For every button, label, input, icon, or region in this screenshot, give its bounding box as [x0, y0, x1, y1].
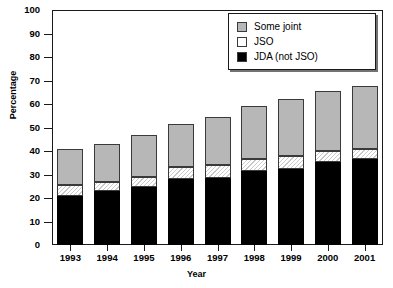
bar-segment-some-joint — [205, 117, 231, 165]
x-axis-tick — [365, 245, 366, 251]
y-axis-tick-label: 30 — [0, 170, 40, 180]
bar-segment-jda — [168, 179, 194, 245]
bar-segment-jda — [241, 171, 267, 245]
x-axis-tick — [328, 245, 329, 251]
bar-segment-some-joint — [57, 149, 83, 185]
y-axis-tick-label: 100 — [0, 5, 40, 15]
x-axis-tick — [218, 245, 219, 251]
bar-segment-jso — [168, 167, 194, 179]
y-axis-tick-label: 0 — [0, 240, 40, 250]
x-axis-tick — [181, 245, 182, 251]
bar-2000 — [315, 10, 341, 245]
x-axis-tick — [70, 245, 71, 251]
x-axis-tick — [107, 245, 108, 251]
y-axis-tick — [44, 81, 52, 82]
bar-segment-some-joint — [352, 86, 378, 148]
stacked-bar-chart: Percentage Year Some jointJSOJDA (not JS… — [0, 0, 393, 288]
bar-1994 — [94, 10, 120, 245]
y-axis-tick-label: 70 — [0, 76, 40, 86]
bar-segment-jso — [57, 185, 83, 196]
bar-segment-jda — [205, 178, 231, 245]
x-axis-title: Year — [0, 269, 393, 279]
bar-1995 — [131, 10, 157, 245]
bar-1993 — [57, 10, 83, 245]
x-axis-tick — [144, 245, 145, 251]
bar-segment-some-joint — [315, 91, 341, 151]
bar-1999 — [278, 10, 304, 245]
y-axis-tick-label: 20 — [0, 193, 40, 203]
bar-segment-jso — [352, 149, 378, 160]
bar-segment-some-joint — [131, 135, 157, 177]
y-axis-tick-label: 10 — [0, 217, 40, 227]
y-axis-tick — [44, 222, 52, 223]
y-axis-tick — [44, 151, 52, 152]
bar-segment-jda — [57, 196, 83, 245]
bar-segment-jda — [352, 159, 378, 245]
y-axis-tick-label: 60 — [0, 99, 40, 109]
bar-segment-jda — [131, 187, 157, 245]
x-axis-tick — [291, 245, 292, 251]
x-axis-tick-label: 2001 — [343, 252, 387, 263]
bar-segment-jso — [94, 182, 120, 191]
bar-segment-jso — [131, 177, 157, 188]
bar-1996 — [168, 10, 194, 245]
bar-segment-jso — [278, 156, 304, 169]
y-axis-tick — [44, 104, 52, 105]
bar-1998 — [241, 10, 267, 245]
bar-1997 — [205, 10, 231, 245]
bar-segment-jso — [241, 159, 267, 171]
y-axis-tick-label: 50 — [0, 123, 40, 133]
bar-segment-some-joint — [94, 144, 120, 182]
y-axis-tick — [44, 198, 52, 199]
bar-2001 — [352, 10, 378, 245]
bar-segment-some-joint — [278, 99, 304, 155]
bar-segment-jso — [315, 151, 341, 162]
y-axis-tick-label: 40 — [0, 146, 40, 156]
y-axis-tick — [44, 175, 52, 176]
y-axis-tick — [44, 57, 52, 58]
x-axis-tick — [254, 245, 255, 251]
y-axis-tick-label: 90 — [0, 29, 40, 39]
bar-segment-jda — [278, 169, 304, 245]
bar-segment-some-joint — [168, 124, 194, 167]
bar-segment-some-joint — [241, 106, 267, 159]
bar-segment-jda — [315, 162, 341, 245]
y-axis-tick — [44, 34, 52, 35]
bar-segment-jda — [94, 191, 120, 245]
y-axis-tick-label: 80 — [0, 52, 40, 62]
y-axis-tick — [44, 128, 52, 129]
bar-segment-jso — [205, 165, 231, 178]
